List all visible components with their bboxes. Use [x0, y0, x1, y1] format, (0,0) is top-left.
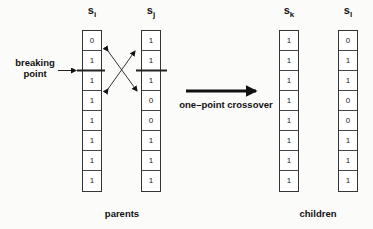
operation-label: one–point crossover: [176, 99, 276, 110]
children-label: children: [288, 208, 348, 219]
diagram-lines: [0, 0, 373, 229]
breaking-point-label: breaking point: [13, 57, 57, 79]
parents-label: parents: [92, 208, 152, 219]
cross-arrow-1: [108, 51, 137, 91]
